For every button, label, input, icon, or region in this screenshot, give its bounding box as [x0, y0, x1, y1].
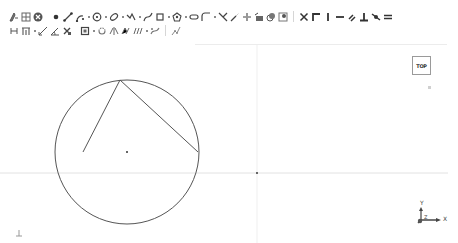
triad-z-label: Z: [424, 214, 427, 220]
show-hide-icon: [97, 26, 107, 36]
toggle-driving-button[interactable]: [61, 25, 72, 36]
symmetry-icon: [109, 26, 119, 36]
extend-button[interactable]: [229, 11, 240, 22]
constrain-coincident-icon: [299, 12, 309, 22]
rectangle-button[interactable]: [154, 11, 165, 22]
constrain-distance-button[interactable]: [37, 25, 48, 36]
toolbar-row-constraints: [8, 24, 182, 37]
fillet-icon: [201, 12, 211, 22]
construction-mode-icon: [278, 12, 288, 22]
constrain-symmetric-icon: [9, 26, 19, 36]
constrain-distance-icon: [38, 26, 48, 36]
constrain-perpendicular-icon: [359, 12, 369, 22]
symmetry-button[interactable]: [108, 25, 119, 36]
constrain-perpendicular-button[interactable]: [358, 11, 369, 22]
ellipse-icon: [109, 12, 119, 22]
sketch-tool-icon: [9, 12, 19, 22]
constrain-parallel-button[interactable]: [346, 11, 357, 22]
rectangular-array-button[interactable]: [132, 25, 143, 36]
toolbar-separator: [165, 25, 166, 36]
select-elements-icon: [80, 26, 90, 36]
point-button[interactable]: [50, 11, 61, 22]
split-button[interactable]: [241, 11, 252, 22]
navigation-cube[interactable]: TOP: [412, 56, 431, 75]
close-sketch-button[interactable]: [32, 11, 43, 22]
trim-icon: [218, 12, 228, 22]
line-icon: [63, 12, 73, 22]
constrain-horizontal-icon: [335, 12, 345, 22]
circle-center-point[interactable]: [126, 151, 128, 153]
external-geometry-button[interactable]: [253, 11, 264, 22]
constrain-block-icon: [21, 26, 31, 36]
triad-y-label: Y: [420, 199, 424, 206]
polyline-icon: [126, 12, 136, 22]
viewcube-menu-icon[interactable]: [428, 86, 431, 89]
grid-button[interactable]: [20, 11, 31, 22]
constrain-point-on-object-button[interactable]: [310, 11, 321, 22]
fillet-button[interactable]: [200, 11, 211, 22]
external-geometry-icon: [254, 12, 264, 22]
virtual-space-icon: [171, 26, 181, 36]
polyline-button[interactable]: [125, 11, 136, 22]
rectangle-icon: [155, 12, 165, 22]
polygon-icon: [172, 12, 182, 22]
constrain-equal-icon: [383, 12, 393, 22]
sketch-line-2[interactable]: [120, 80, 198, 152]
circle-button[interactable]: [91, 11, 102, 22]
constrain-equal-button[interactable]: [382, 11, 393, 22]
carbon-copy-button[interactable]: [265, 11, 276, 22]
constrain-tangent-button[interactable]: [370, 11, 381, 22]
origin-point[interactable]: [256, 172, 258, 174]
toolbar-separator: [293, 11, 294, 22]
grid-icon: [21, 12, 31, 22]
close-sketch-icon: [33, 12, 43, 22]
triad-x-label: X: [443, 215, 447, 222]
bspline-icon: [143, 12, 153, 22]
polygon-button[interactable]: [171, 11, 182, 22]
constrain-symmetric-button[interactable]: [8, 25, 19, 36]
ucs-origin-icon: [15, 229, 23, 237]
trim-button[interactable]: [217, 11, 228, 22]
show-hide-button[interactable]: [96, 25, 107, 36]
rectangular-array-icon: [133, 26, 143, 36]
3d-view-canvas[interactable]: [0, 45, 458, 243]
viewcube-face-label: TOP: [416, 63, 426, 69]
sketch-tool-button[interactable]: [8, 11, 19, 22]
toggle-driving-icon: [62, 26, 72, 36]
axis-triad: Y X Z: [413, 206, 453, 228]
constrain-vertical-icon: [323, 12, 333, 22]
constrain-horizontal-button[interactable]: [334, 11, 345, 22]
slot-icon: [189, 12, 199, 22]
constrain-parallel-icon: [347, 12, 357, 22]
toolbar-row-geometry: [8, 10, 394, 23]
constrain-angle-button[interactable]: [49, 25, 60, 36]
slot-button[interactable]: [188, 11, 199, 22]
bspline-tools-icon: [150, 26, 160, 36]
ellipse-button[interactable]: [108, 11, 119, 22]
point-icon: [51, 12, 61, 22]
clone-button[interactable]: [120, 25, 131, 36]
bspline-button[interactable]: [142, 11, 153, 22]
constrain-point-on-object-icon: [311, 12, 321, 22]
arc-button[interactable]: [74, 11, 85, 22]
constrain-coincident-button[interactable]: [298, 11, 309, 22]
constrain-vertical-button[interactable]: [322, 11, 333, 22]
line-button[interactable]: [62, 11, 73, 22]
clone-icon: [121, 26, 131, 36]
select-elements-button[interactable]: [79, 25, 90, 36]
constrain-tangent-icon: [371, 12, 381, 22]
carbon-copy-icon: [266, 12, 276, 22]
arc-icon: [75, 12, 85, 22]
extend-icon: [230, 12, 240, 22]
virtual-space-button[interactable]: [170, 25, 181, 36]
split-icon: [242, 12, 252, 22]
constrain-block-button[interactable]: [20, 25, 31, 36]
constrain-angle-icon: [50, 26, 60, 36]
bspline-tools-button[interactable]: [149, 25, 160, 36]
circle-icon: [92, 12, 102, 22]
construction-mode-button[interactable]: [277, 11, 288, 22]
